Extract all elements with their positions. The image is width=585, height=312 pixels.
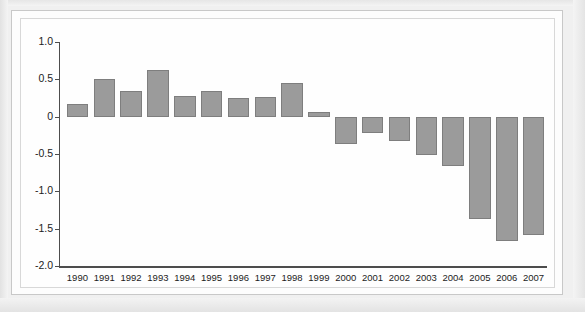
y-axis-tick-label: -0.5	[23, 148, 53, 159]
bar	[120, 91, 142, 117]
bar	[362, 117, 384, 133]
bar	[174, 96, 196, 117]
bar	[201, 91, 223, 117]
y-axis-tick-text: 0	[47, 111, 53, 122]
x-axis-tick-label: 2007	[518, 272, 550, 283]
y-axis-tick-text: -1.0	[35, 185, 53, 196]
y-axis-tick-mark	[55, 79, 59, 80]
page-background: 1.00.50-0.5-1.0-1.5-2.0 1990199119921993…	[0, 0, 585, 312]
bar	[67, 104, 89, 117]
y-axis-tick-text: 1.0	[38, 36, 53, 47]
y-axis-tick-mark	[55, 154, 59, 155]
bar	[94, 79, 116, 116]
y-axis-tick-label: 0	[23, 111, 53, 122]
y-axis-tick-text: -2.0	[35, 260, 53, 271]
y-axis-tick-label: -2.0	[23, 260, 53, 271]
bar	[281, 83, 303, 117]
bar	[147, 70, 169, 117]
y-axis-tick-mark	[55, 117, 59, 118]
bar	[469, 117, 491, 219]
y-axis-tick-mark	[55, 229, 59, 230]
y-axis-tick-label: 0.5	[23, 73, 53, 84]
bar	[389, 117, 411, 141]
y-axis-tick-text: -0.5	[35, 148, 53, 159]
y-axis-tick-text: -1.5	[35, 223, 53, 234]
bar	[442, 117, 464, 166]
bar	[255, 97, 277, 116]
bar	[523, 117, 545, 236]
x-axis-line	[59, 266, 547, 268]
bar	[228, 98, 250, 117]
y-axis-tick-text: 0.5	[38, 73, 53, 84]
bar	[308, 112, 330, 116]
y-axis-tick-mark	[55, 191, 59, 192]
bar	[335, 117, 357, 145]
y-axis-tick-label: -1.5	[23, 223, 53, 234]
bar	[416, 117, 438, 156]
bar-chart: 1.00.50-0.5-1.0-1.5-2.0 1990199119921993…	[0, 0, 585, 312]
y-axis-line	[59, 42, 60, 267]
y-axis-tick-label: -1.0	[23, 185, 53, 196]
y-axis-tick-label: 1.0	[23, 36, 53, 47]
y-axis-tick-mark	[55, 42, 59, 43]
y-axis-tick-mark	[55, 266, 59, 267]
bar	[496, 117, 518, 242]
